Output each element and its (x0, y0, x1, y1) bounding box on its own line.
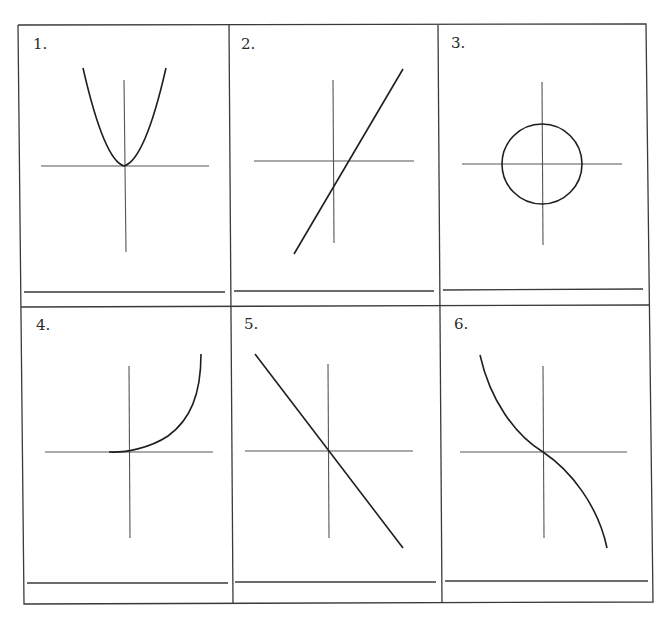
graph-4 (45, 354, 213, 538)
graph-4-y-axis (129, 366, 130, 538)
cell-label-2: 2. (241, 37, 255, 52)
graph-2 (254, 69, 414, 254)
graph-5 (245, 354, 413, 548)
cell-label-6: 6. (454, 317, 468, 332)
cell-label-3: 3. (451, 36, 465, 51)
cell-label-4: 4. (36, 318, 50, 333)
cell-label-5: 5. (244, 317, 258, 332)
answer-line-3[interactable] (443, 289, 643, 290)
graph-6 (460, 355, 627, 548)
worksheet-grid (0, 0, 663, 617)
column-divider-1 (229, 25, 233, 603)
cell-label-1: 1. (33, 37, 47, 52)
graph-4-curve (109, 354, 201, 452)
graph-worksheet: 1. 2. 3. 4. 5. 6. (0, 0, 663, 617)
graph-3-y-axis (542, 82, 543, 245)
table-grid (18, 24, 653, 604)
row-divider (21, 305, 650, 307)
graph-2-y-axis (333, 80, 334, 243)
table-outer-border (18, 24, 653, 604)
answer-lines (24, 289, 648, 583)
graph-3 (462, 82, 622, 245)
column-divider-2 (438, 25, 442, 603)
graph-1 (41, 68, 209, 252)
